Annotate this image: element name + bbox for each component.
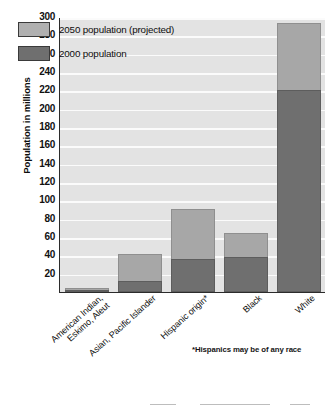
- chart-footnote: *Hispanics may be of any race: [192, 345, 301, 354]
- legend-item-2050: 2050 population (projected): [18, 22, 174, 37]
- x-tick-label-line: Hispanic origin*: [159, 293, 211, 341]
- y-tick-20: 20: [25, 268, 55, 279]
- bar-segment-2000: [224, 257, 268, 292]
- x-tick-label-5: White: [294, 293, 317, 315]
- bar-3[interactable]: [171, 17, 215, 292]
- bar-segment-2000: [65, 290, 109, 292]
- x-tick-label-3: Hispanic origin*: [159, 293, 211, 341]
- y-tick-220: 220: [25, 84, 55, 95]
- y-tick-60: 60: [25, 231, 55, 242]
- bar-5[interactable]: [277, 17, 321, 292]
- legend-label-2050: 2050 population (projected): [59, 24, 174, 35]
- chart-legend: 2050 population (projected) 2000 populat…: [18, 22, 174, 70]
- legend-swatch-2050-icon: [18, 22, 50, 37]
- legend-label-2000: 2000 population: [59, 48, 126, 59]
- bar-segment-2000: [277, 90, 321, 292]
- scan-artifact: [150, 404, 176, 405]
- legend-item-2000: 2000 population: [18, 46, 174, 61]
- y-tick-160: 160: [25, 139, 55, 150]
- bar-segment-2000: [171, 259, 215, 292]
- y-tick-180: 180: [25, 121, 55, 132]
- legend-swatch-2000-icon: [18, 46, 50, 61]
- y-tick-80: 80: [25, 213, 55, 224]
- y-tick-120: 120: [25, 176, 55, 187]
- y-tick-140: 140: [25, 158, 55, 169]
- scan-artifact: [290, 404, 310, 405]
- y-tick-200: 200: [25, 103, 55, 114]
- x-axis-tick-labels: American Indian,Eskimo, AleutAsian, Paci…: [59, 293, 325, 373]
- y-tick-300: 300: [25, 11, 55, 22]
- x-tick-label-line: Black: [241, 293, 264, 315]
- y-tick-100: 100: [25, 194, 55, 205]
- scan-artifact: [200, 404, 270, 405]
- y-tick-40: 40: [25, 249, 55, 260]
- x-tick-label-4: Black: [241, 293, 264, 315]
- chart-figure: Population in millions 30028026024022020…: [0, 0, 334, 411]
- bar-4[interactable]: [224, 17, 268, 292]
- bar-segment-2000: [118, 281, 162, 292]
- x-tick-label-line: White: [294, 293, 317, 315]
